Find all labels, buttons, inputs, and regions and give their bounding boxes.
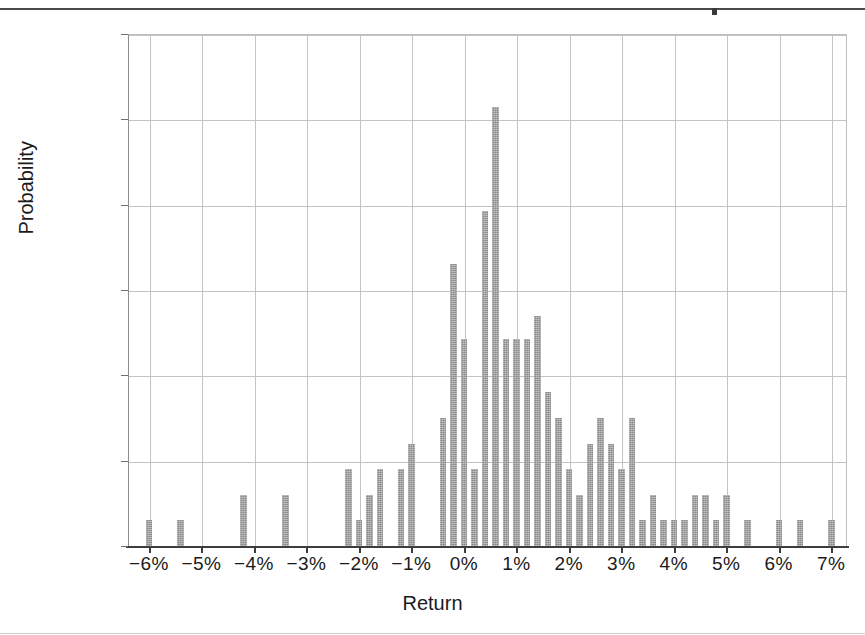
x-tick-label: 7% <box>801 553 861 575</box>
histogram-bar <box>408 444 415 546</box>
histogram-bar <box>629 418 636 546</box>
x-tick-mark <box>674 546 676 553</box>
histogram-bar <box>513 339 520 546</box>
x-tick-mark <box>569 546 571 553</box>
x-tick-mark <box>831 546 833 553</box>
histogram-bar <box>555 418 562 546</box>
x-tick-label: 1% <box>486 553 546 575</box>
histogram-bar <box>576 495 583 546</box>
histogram-bar <box>534 316 541 546</box>
y-axis-title: Probability <box>15 195 38 235</box>
x-tick-label: −4% <box>224 553 284 575</box>
histogram-bar <box>566 469 573 546</box>
x-tick-mark <box>201 546 203 553</box>
histogram-bar <box>608 444 615 546</box>
histogram-bar <box>692 495 699 546</box>
x-tick-mark <box>411 546 413 553</box>
histogram-bar <box>240 495 247 546</box>
x-tick-mark <box>306 546 308 553</box>
x-tick-mark <box>464 546 466 553</box>
y-tick-mark <box>121 290 128 291</box>
histogram-bar <box>345 469 352 546</box>
x-tick-mark <box>254 546 256 553</box>
histogram-bar <box>776 520 783 546</box>
x-tick-label: −2% <box>329 553 389 575</box>
histogram-bar <box>702 495 709 546</box>
histogram-bar <box>461 339 468 546</box>
y-tick-mark <box>121 34 128 35</box>
histogram-bar <box>471 469 478 546</box>
x-tick-label: 6% <box>749 553 809 575</box>
x-tick-label: −3% <box>276 553 336 575</box>
histogram-bar <box>797 520 804 546</box>
x-tick-label: −1% <box>381 553 441 575</box>
page-bottom-edge <box>0 633 865 634</box>
histogram-bar <box>660 520 667 546</box>
bars-container <box>128 34 847 546</box>
page-top-rule <box>0 8 865 10</box>
histogram-bar <box>366 495 373 546</box>
y-tick-mark <box>121 461 128 462</box>
histogram-bar <box>639 520 646 546</box>
histogram-bar <box>146 520 153 546</box>
y-tick-mark <box>121 546 128 547</box>
histogram-bar <box>492 107 499 546</box>
histogram-bar <box>398 469 405 546</box>
x-tick-mark <box>516 546 518 553</box>
histogram-bar <box>545 392 552 546</box>
histogram-bar <box>681 520 688 546</box>
histogram-bar <box>440 418 447 546</box>
histogram-bar <box>723 495 730 546</box>
histogram-bar <box>356 520 363 546</box>
histogram-bar <box>587 444 594 546</box>
histogram-bar <box>177 520 184 546</box>
histogram-bar <box>744 520 751 546</box>
x-tick-mark <box>726 546 728 553</box>
histogram-bar <box>482 211 489 546</box>
x-tick-label: 2% <box>539 553 599 575</box>
x-tick-label: 3% <box>591 553 651 575</box>
histogram-bar <box>671 520 678 546</box>
histogram-bar <box>524 339 531 546</box>
histogram-bar <box>377 469 384 546</box>
y-tick-mark <box>121 205 128 206</box>
histogram-bar <box>713 520 720 546</box>
histogram-bar <box>282 495 289 546</box>
x-tick-mark <box>149 546 151 553</box>
x-tick-mark <box>621 546 623 553</box>
y-tick-mark <box>121 375 128 376</box>
histogram-bar <box>650 495 657 546</box>
x-axis-title: Return <box>0 592 865 615</box>
x-tick-label: 5% <box>696 553 756 575</box>
x-tick-label: 0% <box>434 553 494 575</box>
x-axis-line <box>126 546 849 548</box>
histogram-bar <box>503 339 510 546</box>
x-tick-mark <box>779 546 781 553</box>
histogram-bar <box>828 520 835 546</box>
x-tick-label: 4% <box>644 553 704 575</box>
histogram-bar <box>618 469 625 546</box>
histogram-figure: Probability 0%2%4%6%8%10%12% −6%−5%−4%−3… <box>0 0 865 635</box>
histogram-bar <box>597 418 604 546</box>
x-tick-label: −5% <box>171 553 231 575</box>
histogram-bar <box>450 264 457 546</box>
x-tick-label: −6% <box>119 553 179 575</box>
x-tick-mark <box>359 546 361 553</box>
y-tick-mark <box>121 119 128 120</box>
top-rule-mark <box>712 8 717 15</box>
